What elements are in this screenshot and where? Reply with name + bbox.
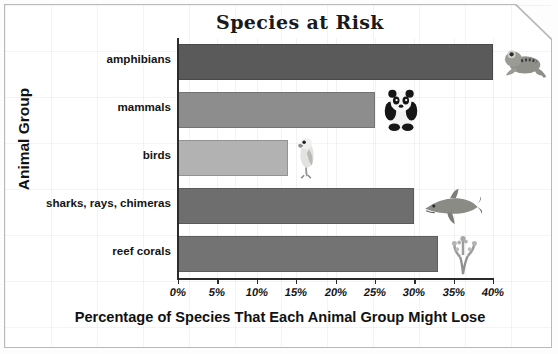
bar-row[interactable]: reef corals — [178, 230, 493, 278]
bar-amphibians[interactable] — [178, 44, 493, 80]
category-label: reef corals — [112, 244, 171, 257]
bar-reef-corals[interactable] — [178, 236, 438, 272]
x-tick — [336, 278, 337, 284]
bar-row[interactable]: mammals — [178, 86, 493, 134]
bar-birds[interactable] — [178, 140, 288, 176]
x-tick-label: 40% — [469, 286, 517, 298]
category-label: birds — [143, 148, 171, 161]
x-tick — [493, 278, 494, 284]
shark-icon — [420, 184, 482, 228]
coral-icon — [444, 232, 482, 276]
bar-row[interactable]: birds — [178, 134, 493, 182]
x-tick — [296, 278, 297, 284]
x-tick — [375, 278, 376, 284]
bar-row[interactable]: amphibians — [178, 38, 493, 86]
y-axis-title: Animal Group — [15, 69, 33, 209]
x-axis-title: Percentage of Species That Each Animal G… — [30, 309, 530, 325]
parrot-icon — [294, 136, 320, 180]
x-tick — [217, 278, 218, 284]
gridline — [493, 38, 494, 278]
category-label: sharks, rays, chimeras — [46, 196, 171, 209]
x-tick — [178, 278, 179, 284]
y-axis-line — [177, 38, 179, 278]
bar-row[interactable]: sharks, rays, chimeras — [178, 182, 493, 230]
chart-title: Species at Risk — [100, 11, 500, 33]
x-tick — [454, 278, 455, 284]
bar-mammals[interactable] — [178, 92, 375, 128]
bar-sharks[interactable] — [178, 188, 414, 224]
chart-page: Species at Risk Animal Group amphibians … — [0, 0, 558, 354]
category-label: amphibians — [107, 52, 171, 65]
x-tick — [414, 278, 415, 284]
panda-icon — [381, 88, 421, 132]
plot-area: amphibians mammals birds — [178, 38, 493, 278]
x-tick — [257, 278, 258, 284]
category-label: mammals — [118, 100, 172, 113]
